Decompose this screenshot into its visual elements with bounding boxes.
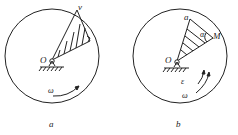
disk-b [133,9,227,103]
omega-label-a: ω [48,86,54,95]
acceleration-label-b: a [184,12,189,22]
diagram-canvas: v O ω a a α M O ε ω b [0,0,238,135]
figure-b [133,9,227,103]
epsilon-label-b: ε [181,77,185,86]
radius-line-b2 [177,38,213,61]
velocity-label-a: v [78,2,82,12]
caption-a: a [49,119,54,129]
pivot-label-b: O [165,55,172,65]
caption-b: b [176,119,181,129]
angle-arc-b [205,33,207,42]
pivot-label-a: O [40,55,47,65]
radius-line-b [177,19,190,61]
point-label-b: M [212,31,221,41]
omega-label-b: ω [182,91,188,100]
